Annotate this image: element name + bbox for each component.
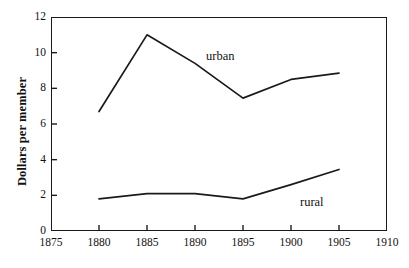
x-tick-label: 1890 — [171, 236, 219, 249]
x-axis-tick-labels: 18751880188518901895190019051910 — [0, 236, 409, 258]
y-tick-label: 12 — [24, 11, 46, 23]
chart-container: Dollars per member 024681012 urban rural… — [0, 0, 409, 268]
x-tick-label: 1880 — [75, 236, 123, 249]
x-tick-label: 1895 — [219, 236, 267, 249]
y-axis-tick-labels: 024681012 — [20, 0, 46, 268]
y-tick-label: 8 — [24, 83, 46, 95]
x-tick-label: 1885 — [123, 236, 171, 249]
x-tick-label: 1905 — [315, 236, 363, 249]
x-tick-label: 1910 — [363, 236, 409, 249]
y-tick-label: 10 — [24, 47, 46, 59]
series-label-rural: rural — [300, 196, 324, 209]
series-label-urban: urban — [206, 50, 234, 63]
y-tick-label: 2 — [24, 190, 46, 202]
x-tick-label: 1875 — [27, 236, 75, 249]
y-tick-label: 6 — [24, 118, 46, 130]
y-tick-label: 4 — [24, 154, 46, 166]
x-tick-label: 1900 — [267, 236, 315, 249]
